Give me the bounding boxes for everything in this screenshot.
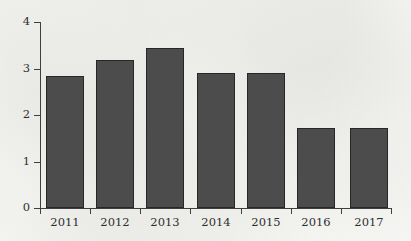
bar-2011	[46, 76, 84, 208]
y-axis-label-2: 2	[14, 109, 30, 121]
y-tick-1	[34, 162, 40, 163]
x-axis-label-2017: 2017	[349, 217, 389, 229]
x-tick-4	[241, 208, 242, 214]
y-axis-label-3: 3	[14, 63, 30, 75]
bar-2013	[146, 48, 184, 208]
x-tick-3	[190, 208, 191, 214]
x-axis-label-2014: 2014	[196, 217, 236, 229]
x-tick-2	[140, 208, 141, 214]
x-axis-label-2015: 2015	[246, 217, 286, 229]
y-axis-line	[40, 22, 41, 209]
bar-chart: 4 3 2 1 0 2011 2012 2013 2014 2015 2016 …	[0, 0, 411, 241]
y-tick-3	[34, 69, 40, 70]
x-tick-7	[391, 208, 392, 214]
x-tick-1	[90, 208, 91, 214]
plot-area: 4 3 2 1 0 2011 2012 2013 2014 2015 2016 …	[0, 0, 411, 241]
x-tick-0	[40, 208, 41, 214]
y-axis-label-1: 1	[14, 156, 30, 168]
x-axis-label-2013: 2013	[145, 217, 185, 229]
x-axis-label-2011: 2011	[45, 217, 85, 229]
y-tick-2	[34, 115, 40, 116]
bar-2015	[247, 73, 285, 208]
x-tick-6	[341, 208, 342, 214]
y-axis-label-4: 4	[14, 16, 30, 28]
x-axis-label-2016: 2016	[296, 217, 336, 229]
bar-2014	[197, 73, 235, 208]
bar-2016	[297, 128, 335, 208]
x-axis-label-2012: 2012	[95, 217, 135, 229]
bar-2012	[96, 60, 134, 208]
y-axis-label-0: 0	[14, 202, 30, 214]
x-tick-5	[291, 208, 292, 214]
y-tick-4	[34, 22, 40, 23]
bar-2017	[350, 128, 388, 208]
